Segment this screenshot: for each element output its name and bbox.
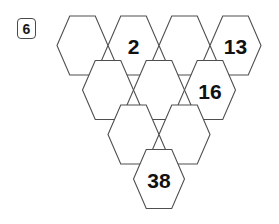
hexagon-cell-value: 13 [224, 35, 247, 58]
hexagon-cell-value: 16 [198, 80, 221, 103]
hexagon-cell-value: 38 [147, 169, 171, 192]
puzzle-figure: 6 2131638 [0, 0, 279, 224]
hexagon-grid-canvas: 2131638 [0, 0, 279, 224]
hexagon-grid: 2131638 [0, 0, 279, 224]
hexagon-cell-value: 2 [128, 35, 140, 58]
